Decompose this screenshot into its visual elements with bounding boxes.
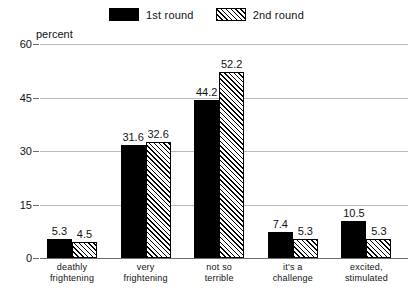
- y-tick-mark-45: [33, 98, 39, 99]
- bar-1st-round: [47, 239, 72, 258]
- bar-value-label: 31.6: [122, 131, 143, 143]
- y-tick-mark-0: [33, 258, 39, 259]
- bar-1st-round: [268, 232, 293, 258]
- bar-2nd-round: [146, 142, 171, 258]
- plot-area: 5.34.531.632.644.252.27.45.310.55.3: [40, 44, 408, 258]
- bar-2nd-round: [366, 239, 391, 258]
- category-label: deathly frightening: [50, 262, 94, 283]
- y-tick-mark-60: [33, 44, 39, 45]
- legend-swatch-solid-icon: [109, 8, 139, 21]
- bar-1st-round: [341, 221, 366, 258]
- y-tick-label-30: 30: [10, 145, 32, 157]
- legend-swatch-hatched-icon: [216, 8, 246, 21]
- category-label: very frightening: [123, 262, 167, 283]
- category-label: excited, stimulated: [345, 262, 388, 283]
- bar-value-label: 5.3: [298, 225, 313, 237]
- bar-value-label: 32.6: [147, 128, 168, 140]
- y-tick-label-45: 45: [10, 92, 32, 104]
- bar-chart: 1st round 2nd round percent 60 45 30 15 …: [0, 0, 413, 295]
- bar-group: 5.34.5: [40, 44, 114, 258]
- category-label: not so terrible: [205, 262, 234, 283]
- bar-group: 10.55.3: [334, 44, 408, 258]
- legend-label-2nd-round: 2nd round: [253, 9, 304, 21]
- bar-group: 44.252.2: [187, 44, 261, 258]
- legend-item-1st-round: 1st round: [109, 8, 194, 21]
- y-axis-tick-labels: 60 45 30 15 0: [8, 0, 32, 295]
- bar-value-label: 5.3: [52, 225, 67, 237]
- bar-1st-round: [121, 145, 146, 258]
- legend-label-1st-round: 1st round: [146, 9, 194, 21]
- bar-2nd-round: [72, 242, 97, 258]
- bar-value-label: 52.2: [221, 58, 242, 70]
- bar-value-label: 4.5: [77, 228, 92, 240]
- x-axis-line: [40, 258, 408, 259]
- bar-value-label: 44.2: [196, 86, 217, 98]
- category-label: it's a challenge: [273, 262, 313, 283]
- legend-item-2nd-round: 2nd round: [216, 8, 304, 21]
- bar-1st-round: [194, 100, 219, 258]
- chart-legend: 1st round 2nd round: [0, 8, 413, 21]
- bar-group: 31.632.6: [114, 44, 188, 258]
- bar-value-label: 5.3: [371, 225, 386, 237]
- bar-2nd-round: [293, 239, 318, 258]
- bar-value-label: 7.4: [273, 218, 288, 230]
- bar-value-label: 10.5: [343, 207, 364, 219]
- bar-2nd-round: [219, 72, 244, 258]
- y-tick-label-0: 0: [10, 252, 32, 264]
- y-tick-label-60: 60: [10, 38, 32, 50]
- y-tick-mark-15: [33, 205, 39, 206]
- bar-group: 7.45.3: [261, 44, 335, 258]
- y-tick-label-15: 15: [10, 199, 32, 211]
- y-tick-mark-30: [33, 151, 39, 152]
- y-axis-unit-label: percent: [36, 28, 73, 40]
